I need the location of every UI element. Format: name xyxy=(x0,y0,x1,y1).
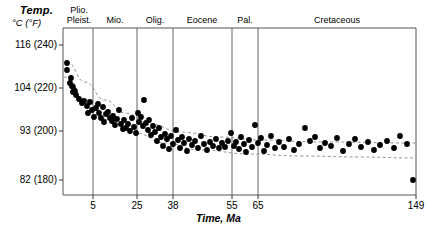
data-point xyxy=(328,143,334,149)
data-point xyxy=(87,99,93,105)
data-point xyxy=(64,67,70,73)
y-tick-label-82: 82 (180) xyxy=(0,174,57,185)
data-point xyxy=(371,147,377,153)
data-point xyxy=(96,110,102,116)
data-point xyxy=(228,130,234,136)
data-point xyxy=(302,125,308,131)
data-point xyxy=(81,98,87,104)
data-point xyxy=(410,177,416,183)
data-point xyxy=(222,144,228,150)
data-point xyxy=(346,141,352,147)
data-point xyxy=(168,133,174,139)
data-point xyxy=(377,142,383,148)
data-point xyxy=(162,131,168,137)
data-point xyxy=(184,148,190,154)
data-point xyxy=(204,147,210,153)
data-point xyxy=(125,121,131,127)
data-point xyxy=(141,97,147,103)
data-point xyxy=(95,101,101,107)
data-point xyxy=(286,136,292,142)
y-tick-label-93: 93 (200) xyxy=(0,125,57,136)
data-point xyxy=(352,136,358,142)
data-point xyxy=(322,140,328,146)
data-point xyxy=(91,114,97,120)
data-point xyxy=(179,134,185,140)
data-point-group xyxy=(64,60,416,183)
data-point xyxy=(129,115,135,121)
y-tick-label-104: 104 (220) xyxy=(0,82,57,93)
data-point xyxy=(384,138,390,144)
data-point xyxy=(276,139,282,145)
data-point xyxy=(100,104,106,110)
data-point xyxy=(281,144,287,150)
chart-plot-area xyxy=(0,0,428,232)
data-point xyxy=(181,140,187,146)
data-point xyxy=(198,133,204,139)
data-point xyxy=(192,138,198,144)
data-point xyxy=(138,114,144,120)
data-point xyxy=(334,135,340,141)
data-point xyxy=(268,133,274,139)
epoch-label-line: Pal. xyxy=(210,16,280,26)
x-tick-label-38: 38 xyxy=(148,200,198,211)
data-point xyxy=(114,116,120,122)
data-point xyxy=(312,134,318,140)
data-point xyxy=(146,117,152,123)
data-point xyxy=(150,123,156,129)
data-point xyxy=(236,146,242,152)
data-point xyxy=(101,119,107,125)
data-point xyxy=(173,127,179,133)
data-point xyxy=(210,143,216,149)
x-tick-label-5: 5 xyxy=(68,200,118,211)
data-point xyxy=(291,147,297,153)
epoch-label-cretaceous: Cretaceous xyxy=(302,16,372,26)
data-point xyxy=(264,142,270,148)
data-point xyxy=(201,141,207,147)
data-point xyxy=(397,133,403,139)
data-point xyxy=(160,143,166,149)
data-point xyxy=(68,75,74,81)
data-point xyxy=(238,134,244,140)
data-point xyxy=(131,124,137,130)
data-point xyxy=(252,122,258,128)
data-point xyxy=(317,145,323,151)
data-point xyxy=(225,138,231,144)
data-point xyxy=(340,148,346,154)
x-tick-label-149: 149 xyxy=(391,200,428,211)
epoch-label-pal: Pal. xyxy=(210,16,280,26)
y-tick-label-116: 116 (240) xyxy=(0,39,57,50)
upper-trend-curve xyxy=(67,62,416,143)
data-point xyxy=(105,109,111,115)
x-tick-label-65: 65 xyxy=(233,200,283,211)
data-point xyxy=(213,136,219,142)
data-point xyxy=(145,127,151,133)
axis-frame xyxy=(63,28,416,195)
data-point xyxy=(246,137,252,143)
data-point xyxy=(272,145,278,151)
temperature-vs-time-chart: Temp. °C (°F) Time, Ma 116 (240)104 (220… xyxy=(0,0,428,232)
data-point xyxy=(249,144,255,150)
data-point xyxy=(156,125,162,131)
data-point xyxy=(391,145,397,151)
data-point xyxy=(166,146,172,152)
data-point xyxy=(116,107,122,113)
data-point xyxy=(177,145,183,151)
data-point xyxy=(255,140,261,146)
data-point xyxy=(233,139,239,145)
data-point xyxy=(307,138,313,144)
data-point xyxy=(170,141,176,147)
data-point xyxy=(258,135,264,141)
data-point xyxy=(112,122,118,128)
epoch-label-line: Cretaceous xyxy=(302,16,372,26)
data-point xyxy=(195,145,201,151)
data-point xyxy=(186,136,192,142)
data-point xyxy=(216,145,222,151)
data-point xyxy=(296,141,302,147)
data-point xyxy=(133,130,139,136)
data-point xyxy=(365,139,371,145)
data-point xyxy=(261,148,267,154)
data-point xyxy=(404,141,410,147)
data-point xyxy=(241,141,247,147)
data-point xyxy=(243,149,249,155)
data-point xyxy=(358,144,364,150)
